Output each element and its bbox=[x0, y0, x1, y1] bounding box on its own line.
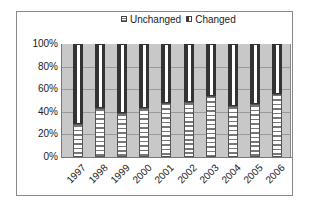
bar-1999 bbox=[117, 44, 127, 157]
bar-1998 bbox=[95, 44, 105, 157]
legend: Unchanged Changed bbox=[121, 12, 241, 26]
y-tick-label: 0% bbox=[20, 152, 58, 162]
y-tick-label: 100% bbox=[20, 39, 58, 49]
bar-segment-changed bbox=[161, 44, 171, 103]
bar-2003 bbox=[206, 44, 216, 157]
bar-segment-unchanged bbox=[139, 108, 149, 157]
y-tick-label: 20% bbox=[20, 129, 58, 139]
bar-segment-changed bbox=[250, 44, 260, 104]
bar-segment-changed bbox=[184, 44, 194, 102]
x-axis bbox=[61, 157, 292, 158]
legend-label-unchanged: Unchanged bbox=[130, 14, 181, 25]
bar-2001 bbox=[161, 44, 171, 157]
legend-item-changed: Changed bbox=[186, 14, 236, 25]
bar-segment-changed bbox=[117, 44, 127, 113]
bar-segment-unchanged bbox=[228, 106, 238, 157]
bar-2004 bbox=[228, 44, 238, 157]
bar-segment-changed bbox=[272, 44, 282, 94]
unchanged-swatch-icon bbox=[121, 16, 127, 22]
bar-segment-unchanged bbox=[272, 94, 282, 157]
bar-1997 bbox=[73, 44, 83, 157]
bar-segment-unchanged bbox=[161, 103, 171, 157]
y-tick-label: 60% bbox=[20, 84, 58, 94]
bar-2006 bbox=[272, 44, 282, 157]
y-tick-label: 80% bbox=[20, 62, 58, 72]
changed-swatch-icon bbox=[186, 16, 192, 22]
bar-segment-changed bbox=[139, 44, 149, 108]
legend-item-unchanged: Unchanged bbox=[121, 14, 181, 25]
bar-segment-unchanged bbox=[250, 104, 260, 157]
bar-segment-unchanged bbox=[206, 96, 216, 157]
y-axis bbox=[61, 44, 62, 158]
bar-segment-unchanged bbox=[95, 108, 105, 157]
bar-2002 bbox=[184, 44, 194, 157]
legend-label-changed: Changed bbox=[195, 14, 236, 25]
bar-segment-unchanged bbox=[184, 102, 194, 157]
bar-2000 bbox=[139, 44, 149, 157]
bar-segment-changed bbox=[228, 44, 238, 106]
bar-2005 bbox=[250, 44, 260, 157]
bar-segment-unchanged bbox=[73, 124, 83, 157]
bar-segment-unchanged bbox=[117, 113, 127, 157]
y-tick-label: 40% bbox=[20, 107, 58, 117]
bar-segment-changed bbox=[206, 44, 216, 96]
bar-segment-changed bbox=[73, 44, 83, 124]
bar-segment-changed bbox=[95, 44, 105, 108]
